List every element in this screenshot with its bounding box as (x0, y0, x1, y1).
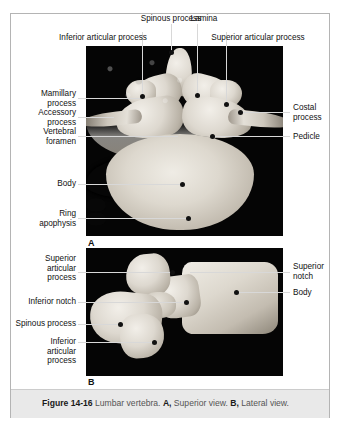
leader-superior-articular-process-b (78, 272, 172, 273)
figure-container: Inferior articular process Spinous proce… (0, 0, 342, 426)
leader-body-a (78, 184, 182, 185)
label-body-b: Body (293, 288, 341, 298)
dot-body-b (234, 290, 239, 295)
caption-part-b-text: Lateral view. (241, 398, 289, 408)
bone-trabecular-texture (86, 46, 206, 122)
label-spinous-process-b: Spinous process (0, 319, 76, 329)
panel-letter-a: A (88, 238, 95, 248)
leader-accessory-process-a (78, 117, 114, 118)
panel-b-photograph (86, 248, 283, 376)
leader-pedicle-a (212, 136, 290, 137)
caption-bar: Figure 14-16 Lumbar vertebra. A, Superio… (11, 389, 329, 418)
label-costal-process-a: Costal process (293, 103, 339, 122)
label-vertebral-foramen-a: Vertebral foramen (16, 127, 76, 146)
label-mamillary-process-a: Mamillary process (16, 89, 76, 108)
dot-superior-articular-process-b (170, 270, 175, 275)
bone-inferior-articular-process-lateral (119, 313, 166, 360)
label-pedicle-a: Pedicle (293, 132, 339, 142)
leader-body-b (236, 292, 290, 293)
dot-lamina-a (195, 93, 200, 98)
caption-part-b-letter: B, (230, 398, 239, 408)
dot-spinous-process-a (169, 50, 174, 55)
bone-superior-articular-process-lateral (124, 252, 172, 298)
leader-superior-articular-process-a (226, 32, 227, 104)
panel-letter-b: B (88, 377, 95, 387)
label-inferior-articular-process-b: Inferior articular process (16, 337, 76, 366)
leader-inferior-articular-process-b (78, 342, 154, 343)
notch-shadow-right (86, 212, 106, 226)
label-lamina-a: Lamina (181, 14, 227, 24)
dot-superior-articular-process-a (224, 102, 229, 107)
notch-shadow-left (86, 198, 106, 212)
caption-subject: Lumbar vertebra. (95, 398, 160, 408)
leader-vertebral-foramen-a (78, 136, 178, 137)
leader-ring-apophysis-a (78, 218, 188, 219)
leader-costal-process-a (240, 112, 290, 113)
leader-spinous-process-b (78, 324, 120, 325)
figure-caption: Figure 14-16 Lumbar vertebra. A, Superio… (42, 398, 289, 408)
leader-spinous-process-a (171, 24, 172, 52)
dot-ring-apophysis-a (186, 216, 191, 221)
leader-superior-notch-b (190, 272, 290, 273)
dot-spinous-process-b (118, 322, 123, 327)
dot-pedicle-a (210, 134, 215, 139)
dot-inferior-notch-b (184, 300, 189, 305)
dot-inferior-articular-process-a (140, 94, 145, 99)
panel-a-photograph (86, 46, 283, 236)
label-body-a: Body (16, 179, 76, 189)
caption-part-a-text: Superior view. (174, 398, 228, 408)
label-inferior-notch-b: Inferior notch (6, 297, 76, 307)
label-superior-articular-process-b: Superior articular process (16, 254, 76, 283)
label-superior-notch-b: Superior notch (293, 262, 341, 281)
dot-inferior-articular-process-b (152, 340, 157, 345)
label-ring-apophysis-a: Ring apophysis (16, 209, 76, 228)
leader-mamillary-process-a (78, 98, 144, 99)
leader-inferior-notch-b (78, 302, 186, 303)
label-inferior-articular-process-a: Inferior articular process (48, 33, 158, 43)
label-accessory-process-a: Accessory process (16, 108, 76, 127)
caption-figure-number: Figure 14-16 (42, 398, 93, 408)
label-superior-articular-process-a: Superior articular process (196, 33, 320, 43)
dot-costal-process-a (238, 110, 243, 115)
dot-body-a (180, 182, 185, 187)
